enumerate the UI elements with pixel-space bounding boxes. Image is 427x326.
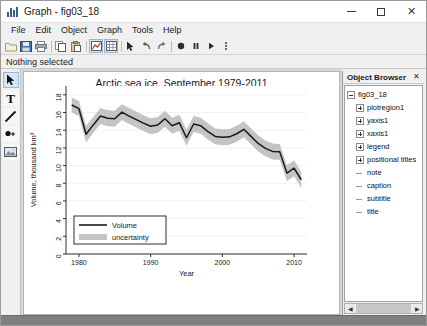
y-tick-label: 12 <box>55 146 62 154</box>
y-tick-label: 14 <box>55 129 62 137</box>
title-bar: Graph - fig03_18 ✕ <box>1 1 426 23</box>
print-icon[interactable] <box>34 39 48 53</box>
selection-status-bar: Nothing selected <box>1 55 426 69</box>
y-tick-label: 18 <box>55 93 62 101</box>
y-tick-label: 16 <box>55 111 62 119</box>
menu-graph[interactable]: Graph <box>92 23 127 38</box>
x-tick-label: 2000 <box>215 259 231 266</box>
object-browser-tree[interactable]: fig03_18plotregion1yaxis1xaxis1legendpos… <box>344 85 423 302</box>
tree-node[interactable]: title <box>345 205 422 218</box>
undo-icon[interactable] <box>139 39 153 53</box>
y-tick-label: 0 <box>55 254 62 258</box>
line-tool[interactable] <box>3 108 19 124</box>
graph-canvas-area: Arctic sea ice, September 1979-2011 0246… <box>21 69 342 315</box>
object-browser-hscrollbar[interactable]: ◀ ▶ <box>344 303 423 314</box>
collapse-icon[interactable] <box>347 91 355 99</box>
pointer-tool-icon[interactable] <box>124 39 138 53</box>
menu-object[interactable]: Object <box>56 23 92 38</box>
minimize-button[interactable] <box>336 1 366 23</box>
tool-palette: T <box>1 69 21 315</box>
graph-card[interactable]: Arctic sea ice, September 1979-2011 0246… <box>23 71 340 315</box>
tree-node[interactable]: yaxis1 <box>345 114 422 127</box>
maximize-button[interactable] <box>366 1 396 23</box>
grid-icon[interactable] <box>104 39 118 53</box>
tree-node-label: plotregion1 <box>367 103 404 112</box>
object-browser-header: Object Browser ✕ <box>343 71 424 84</box>
chart-plot[interactable]: 0246810121416181980199020002010Volume, t… <box>24 72 314 297</box>
text-tool-icon: T <box>6 92 15 105</box>
edit-graph-icon[interactable] <box>89 39 103 53</box>
x-tick-label: 1990 <box>143 259 159 266</box>
tree-node-label: fig03_18 <box>358 90 387 99</box>
toolbar-separator-1 <box>49 39 53 53</box>
tree-node[interactable]: plotregion1 <box>345 101 422 114</box>
copy-icon[interactable] <box>54 39 68 53</box>
scrollbar-thumb[interactable] <box>356 304 411 313</box>
tree-node[interactable]: note <box>345 166 422 179</box>
menu-help[interactable]: Help <box>158 23 187 38</box>
tree-node[interactable]: legend <box>345 140 422 153</box>
pointer-tool[interactable] <box>3 72 19 88</box>
tree-node-label: caption <box>367 181 391 190</box>
graph-editor-window: Graph - fig03_18 ✕ File Edit Object Grap… <box>0 0 427 326</box>
save-icon[interactable] <box>19 39 33 53</box>
expand-icon[interactable] <box>356 117 364 125</box>
expand-icon[interactable] <box>356 104 364 112</box>
play-icon[interactable] <box>204 39 218 53</box>
menu-tools[interactable]: Tools <box>127 23 158 38</box>
tree-node-label: subtitle <box>367 194 391 203</box>
image-tool[interactable] <box>3 144 19 160</box>
y-tick-label: 10 <box>55 164 62 172</box>
object-browser-title: Object Browser <box>347 73 406 82</box>
tree-node[interactable]: caption <box>345 179 422 192</box>
tree-node-label: xaxis1 <box>367 129 388 138</box>
close-button[interactable]: ✕ <box>396 1 426 23</box>
record-icon[interactable] <box>174 39 188 53</box>
tree-node[interactable]: subtitle <box>345 192 422 205</box>
close-icon: ✕ <box>407 6 416 17</box>
expand-icon[interactable] <box>356 130 364 138</box>
window-title: Graph - fig03_18 <box>24 6 99 17</box>
toolbar-separator-3 <box>119 39 123 53</box>
tree-node[interactable]: positional titles <box>345 153 422 166</box>
toolbar <box>1 38 426 55</box>
x-axis-title: Year <box>179 269 195 278</box>
y-tick-label: 8 <box>55 184 62 188</box>
open-icon[interactable] <box>4 39 18 53</box>
tree-node-label: positional titles <box>367 155 416 164</box>
bar-chart-icon <box>7 6 19 17</box>
x-tick-label: 1980 <box>71 259 87 266</box>
y-tick-label: 2 <box>55 237 62 241</box>
redo-icon[interactable] <box>154 39 168 53</box>
legend-label-uncertainty: uncertainty <box>112 233 149 242</box>
toolbar-separator-4 <box>169 39 173 53</box>
tree-leaf-icon[interactable] <box>356 208 364 216</box>
tree-node[interactable]: xaxis1 <box>345 127 422 140</box>
toolbar-separator-2 <box>84 39 88 53</box>
pause-icon[interactable] <box>189 39 203 53</box>
tree-node-label: legend <box>367 142 390 151</box>
menu-file[interactable]: File <box>6 23 31 38</box>
window-controls: ✕ <box>336 1 426 23</box>
tree-leaf-icon[interactable] <box>356 169 364 177</box>
menu-edit[interactable]: Edit <box>31 23 57 38</box>
y-axis-title: Volume, thousand km³ <box>29 132 38 207</box>
marker-tool[interactable] <box>3 126 19 142</box>
tree-node-label: note <box>367 168 382 177</box>
tree-leaf-icon[interactable] <box>356 195 364 203</box>
scroll-right-button[interactable]: ▶ <box>412 304 422 313</box>
expand-icon[interactable] <box>356 156 364 164</box>
text-tool[interactable]: T <box>3 90 19 106</box>
expand-icon[interactable] <box>356 143 364 151</box>
overflow-icon[interactable] <box>219 39 233 53</box>
tree-leaf-icon[interactable] <box>356 182 364 190</box>
scroll-left-button[interactable]: ◀ <box>345 304 355 313</box>
object-browser-panel: Object Browser ✕ fig03_18plotregion1yaxi… <box>342 71 424 315</box>
y-tick-label: 6 <box>55 201 62 205</box>
paste-icon[interactable] <box>69 39 83 53</box>
y-tick-label: 4 <box>55 219 62 223</box>
close-icon[interactable]: ✕ <box>411 73 422 81</box>
x-tick-label: 2010 <box>286 259 302 266</box>
tree-node[interactable]: fig03_18 <box>345 88 422 101</box>
tree-node-label: title <box>367 207 379 216</box>
